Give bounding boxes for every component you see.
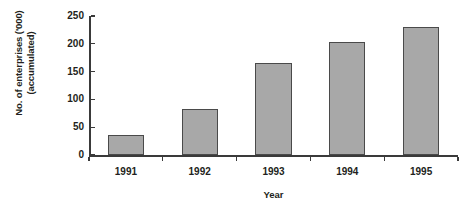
bar-1995 <box>403 27 439 155</box>
bar-1991 <box>108 135 144 155</box>
bar-1993 <box>255 63 291 155</box>
x-axis-label-1995: 1995 <box>391 166 451 177</box>
y-axis-tick <box>91 71 95 72</box>
y-axis-tick <box>91 43 95 44</box>
x-axis-label-1991: 1991 <box>96 166 156 177</box>
y-axis-tick <box>91 99 95 100</box>
x-axis-tick <box>384 157 385 162</box>
plot-area: 050100150200250 19911992199319941995 <box>89 16 458 155</box>
x-axis-title: Year <box>89 189 458 200</box>
x-axis-tick <box>310 157 311 162</box>
x-axis-tick <box>88 157 89 162</box>
y-axis-tick-label: 100 <box>50 94 84 104</box>
y-axis-line <box>89 16 91 155</box>
y-axis-title-line-2: (accumulated) <box>25 0 37 143</box>
x-axis-label-1992: 1992 <box>170 166 230 177</box>
x-axis-tick <box>162 157 163 162</box>
y-axis-tick <box>91 154 95 155</box>
y-axis-tick-label: 200 <box>50 39 84 49</box>
x-axis-label-1994: 1994 <box>317 166 377 177</box>
x-axis-tick <box>457 157 458 162</box>
bar-1994 <box>329 42 365 155</box>
y-axis-title-line-1: No. of enterprises ('000) <box>13 0 25 143</box>
y-axis-title: No. of enterprises ('000) (accumulated) <box>13 0 47 143</box>
x-axis-label-1993: 1993 <box>244 166 304 177</box>
bar-1992 <box>182 109 218 155</box>
y-axis-tick-label: 0 <box>50 150 84 160</box>
y-axis-tick-label: 150 <box>50 67 84 77</box>
bar-chart: No. of enterprises ('000) (accumulated) … <box>0 0 472 213</box>
y-axis-tick <box>91 15 95 16</box>
y-axis-tick-label: 250 <box>50 11 84 21</box>
x-axis-line <box>89 155 458 157</box>
y-axis-tick-label: 50 <box>50 122 84 132</box>
y-axis-tick <box>91 127 95 128</box>
x-axis-tick <box>236 157 237 162</box>
